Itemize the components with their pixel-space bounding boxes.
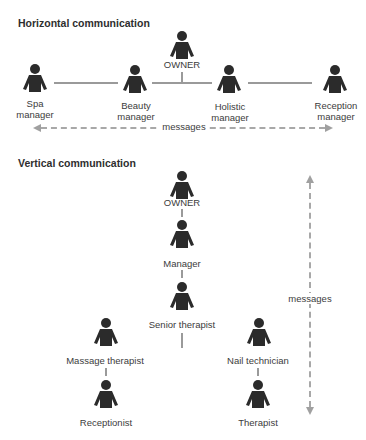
therapist-person-icon: [243, 379, 273, 409]
holistic-manager-person-icon: [214, 64, 244, 94]
nail-technician-label: Nail technician: [227, 355, 289, 366]
spa-manager-person-icon: [20, 63, 50, 93]
massage-therapist-person-icon: [91, 317, 121, 347]
spa-beauty-connector: [54, 82, 118, 84]
receptionist-label: Receptionist: [80, 417, 132, 428]
horizontal-section-title: Horizontal communication: [18, 17, 150, 29]
massage-receptionist-connector: [105, 368, 107, 376]
senior-branch-connector: [181, 333, 183, 348]
owner-v-label: OWNER: [164, 197, 200, 208]
owner-person-icon: [167, 30, 197, 60]
therapist-label: Therapist: [238, 417, 278, 428]
manager-senior-connector: [181, 270, 183, 278]
arrow-right-icon: [325, 124, 333, 132]
owner-v-person-icon: [167, 170, 197, 200]
manager-label: Manager: [163, 258, 201, 269]
beauty-holistic-connector: [152, 82, 212, 84]
owner-manager-connector: [181, 209, 183, 217]
owner-label: OWNER: [164, 59, 200, 70]
senior-therapist-person-icon: [167, 281, 197, 311]
beauty-manager-person-icon: [120, 64, 150, 94]
arrow-left-icon: [33, 124, 41, 132]
manager-person-icon: [167, 219, 197, 249]
vertical-section-title: Vertical communication: [18, 157, 136, 169]
receptionist-person-icon: [91, 379, 121, 409]
spa-manager-label: Spamanager: [16, 98, 54, 120]
arrow-down-icon: [306, 407, 314, 415]
reception-manager-person-icon: [320, 64, 350, 94]
arrow-up-icon: [306, 175, 314, 183]
holistic-manager-label: Holisticmanager: [211, 101, 249, 123]
massage-therapist-label: Massage therapist: [66, 355, 144, 366]
holistic-reception-connector: [248, 82, 312, 84]
beauty-manager-label: Beautymanager: [117, 100, 155, 122]
vertical-messages-label: messages: [285, 293, 334, 304]
horizontal-messages-label: messages: [159, 121, 208, 132]
senior-therapist-label: Senior therapist: [149, 319, 216, 330]
nail-technician-person-icon: [244, 317, 274, 347]
reception-manager-label: Receptionmanager: [315, 100, 358, 122]
nail-therapist-connector: [257, 368, 259, 376]
